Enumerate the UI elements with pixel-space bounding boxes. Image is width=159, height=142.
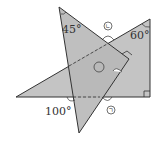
mark-label-top: ㄴ: [105, 22, 111, 29]
mark-label-bottom: ㄱ: [108, 106, 114, 113]
triangles-diagram: 45° 60° 100° ㄴ ㄱ: [0, 0, 159, 142]
label-100: 100°: [45, 105, 72, 118]
label-45: 45°: [62, 23, 82, 36]
label-60: 60°: [130, 29, 150, 42]
arc-top-intersection: [102, 36, 114, 40]
